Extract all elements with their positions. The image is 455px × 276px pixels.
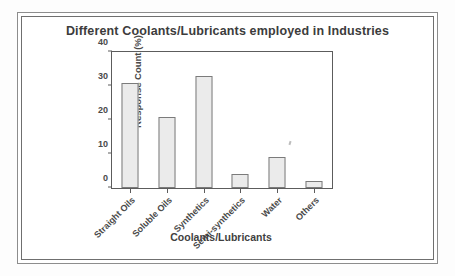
bar [232, 174, 249, 188]
bar [268, 157, 285, 188]
plot-area: Response Count (%) 010203040 Straight Oi… [111, 51, 333, 189]
x-tick-mark [204, 188, 205, 193]
x-tick-mark [240, 188, 241, 193]
bar-group: Synthetics [185, 52, 222, 188]
scanned-page-background: Different Coolants/Lubricants employed i… [0, 0, 455, 276]
y-tick-label: 20 [98, 105, 108, 115]
bar [122, 83, 139, 188]
x-tick-label: Water [260, 195, 285, 220]
bar-group: Soluble Oils [149, 52, 186, 188]
x-tick-mark [277, 188, 278, 193]
y-tick-label: 10 [98, 139, 108, 149]
bar-group: Semi-synthetics [222, 52, 259, 188]
y-tick-label: 0 [103, 173, 108, 183]
bar-group: Straight Oils [112, 52, 149, 188]
bar [305, 181, 322, 188]
bar-group: Others [295, 52, 332, 188]
x-tick-label: Others [293, 195, 321, 223]
x-tick-mark [167, 188, 168, 193]
y-tick-label: 40 [98, 37, 108, 47]
x-tick-mark [314, 188, 315, 193]
bar [195, 76, 212, 188]
bar-group: Water [259, 52, 296, 188]
bars-layer: Straight OilsSoluble OilsSyntheticsSemi-… [112, 52, 332, 188]
bar [158, 117, 175, 188]
x-axis-title: Coolants/Lubricants [76, 231, 366, 243]
x-tick-mark [130, 188, 131, 193]
bar-chart-figure: Different Coolants/Lubricants employed i… [21, 16, 434, 260]
chart-title: Different Coolants/Lubricants employed i… [21, 24, 434, 38]
y-tick-label: 30 [98, 71, 108, 81]
